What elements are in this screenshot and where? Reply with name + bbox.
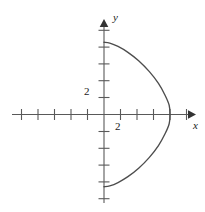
y-axis-arrowhead (100, 19, 109, 27)
y-axis-tick-label-2: 2 (84, 86, 90, 97)
y-axis-group (99, 19, 110, 203)
plot-figure: y x 2 2 (0, 0, 205, 212)
x-axis-arrowhead (188, 110, 196, 119)
x-axis-tick-label-2: 2 (115, 121, 121, 132)
x-axis-label: x (193, 120, 198, 131)
plot-canvas (0, 0, 205, 212)
y-axis-label: y (113, 12, 118, 23)
